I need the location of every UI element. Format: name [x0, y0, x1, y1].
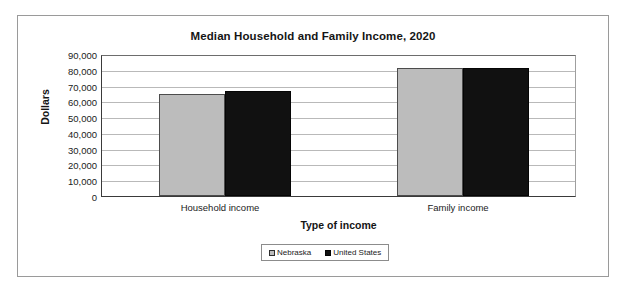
y-tick-label: 30,000	[41, 144, 97, 155]
y-axis-tick-labels: 90,000 80,000 70,000 60,000 50,000 40,00…	[39, 55, 97, 197]
y-tick-label: 40,000	[41, 128, 97, 139]
y-tick-label: 90,000	[41, 50, 97, 61]
legend-swatch-icon	[269, 250, 275, 256]
y-tick-label: 20,000	[41, 160, 97, 171]
y-tick-label: 10,000	[41, 176, 97, 187]
y-tick-label: 80,000	[41, 65, 97, 76]
legend-entry-nebraska[interactable]: Nebraska	[269, 248, 311, 257]
bar-nebraska-family-income[interactable]	[397, 68, 463, 196]
legend-label: United States	[333, 248, 381, 257]
legend-label: Nebraska	[277, 248, 311, 257]
y-tick-label: 50,000	[41, 113, 97, 124]
y-tick-label: 60,000	[41, 97, 97, 108]
bar-united-states-household-income[interactable]	[225, 91, 291, 196]
chart-title: Median Household and Family Income, 2020	[18, 30, 608, 42]
legend-entry-united-states[interactable]: United States	[325, 248, 381, 257]
x-tick-label-family-income: Family income	[339, 202, 577, 213]
chart-legend: Nebraska United States	[261, 244, 389, 261]
plot-area	[101, 55, 576, 197]
y-tick-label: 0	[41, 192, 97, 203]
bar-nebraska-household-income[interactable]	[159, 94, 225, 196]
chart-frame: Median Household and Family Income, 2020…	[17, 15, 609, 277]
legend-swatch-icon	[325, 250, 331, 256]
bar-united-states-family-income[interactable]	[463, 68, 529, 196]
x-axis-title: Type of income	[101, 219, 576, 231]
y-tick-label: 70,000	[41, 81, 97, 92]
x-tick-label-household-income: Household income	[101, 202, 339, 213]
